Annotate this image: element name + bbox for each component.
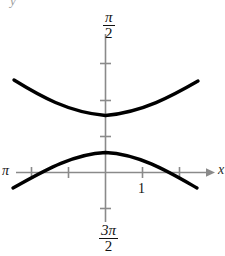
x-axis-label-pi: π	[2, 164, 9, 178]
y-axis-label-pi-over-two: π 2	[103, 10, 115, 42]
fraction-denominator: 2	[103, 26, 115, 41]
x-axis-name-label: x	[218, 163, 224, 177]
cropped-top-text: y	[10, 0, 16, 7]
fraction-denominator: 2	[99, 239, 118, 254]
x-axis-tick-label-one: 1	[138, 182, 145, 196]
fraction-pi-over-two: π 2	[103, 10, 115, 42]
figure-container: y π 2 3π 2 π 1 x	[0, 0, 225, 256]
x-axis-arrow-icon	[206, 168, 215, 177]
fraction-numerator: 3π	[99, 223, 118, 239]
y-axis-label-three-pi-over-two: 3π 2	[99, 223, 118, 255]
fraction-numerator: π	[103, 10, 115, 26]
fraction-three-pi-over-two: 3π 2	[99, 223, 118, 255]
